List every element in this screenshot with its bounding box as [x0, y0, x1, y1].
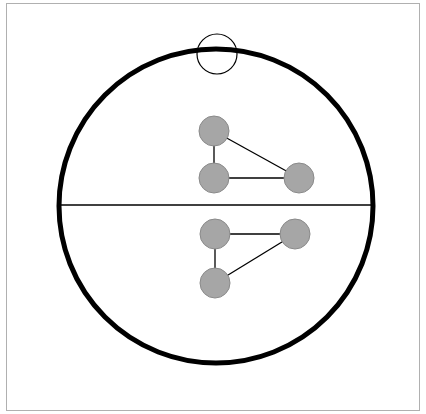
lower-graph-node — [280, 219, 310, 249]
upper-graph-node — [199, 116, 229, 146]
upper-graph-node — [284, 163, 314, 193]
upper-graph-node — [199, 163, 229, 193]
outer-circle — [59, 49, 373, 363]
outer-frame — [7, 4, 420, 411]
lower-graph-node — [200, 268, 230, 298]
diagram-canvas — [0, 0, 426, 414]
lower-graph-node — [200, 219, 230, 249]
graph-edges — [214, 131, 299, 283]
graph-nodes — [199, 116, 314, 298]
highlight-circle — [197, 34, 237, 74]
